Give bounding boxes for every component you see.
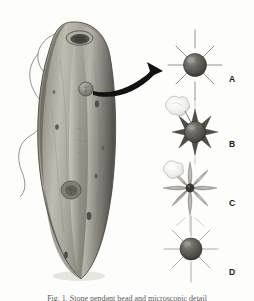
panel-D-sphere — [180, 238, 202, 260]
panel-D-illustration — [164, 216, 218, 282]
suspension-hole-inner-shadow — [74, 37, 87, 43]
panel-C-core-specular — [187, 186, 190, 188]
panel-A-specular — [187, 57, 195, 63]
panel-A-sphere — [184, 54, 207, 77]
panel-C-core — [186, 184, 194, 192]
artifact-pit — [53, 90, 56, 94]
panel-C-blob — [164, 161, 184, 179]
artifact-pit — [64, 251, 68, 258]
artifact-pit — [55, 124, 59, 129]
artifact-pit — [94, 174, 97, 179]
artifact-illustration — [19, 22, 116, 281]
panel-label-c: C — [229, 199, 235, 208]
figure-container: A B C D Fig. 1. Stone pendant bead and m… — [0, 0, 254, 301]
panel-A-illustration — [168, 30, 222, 100]
panel-D-specular — [183, 241, 191, 247]
panel-C-faint-rays — [176, 215, 204, 232]
panel-label-a: A — [229, 75, 235, 84]
figure-illustration — [0, 0, 254, 301]
panel-label-b: B — [229, 140, 235, 149]
panel-B-specular — [188, 125, 195, 130]
panel-B-illustration — [166, 96, 218, 164]
artifact-pit — [87, 212, 92, 220]
figure-caption: Fig. 1. Stone pendant bead and microscop… — [0, 294, 254, 301]
artifact-pit — [102, 146, 105, 150]
panel-label-d: D — [229, 268, 235, 277]
panel-C-illustration — [163, 161, 217, 232]
panel-B-sphere — [185, 122, 206, 143]
